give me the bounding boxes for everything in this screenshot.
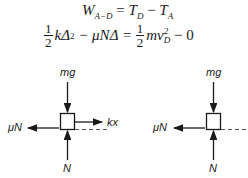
block-icon	[61, 114, 75, 130]
spring-force-label: kx	[107, 116, 118, 128]
free-body-diagram-1	[28, 82, 108, 160]
free-body-diagram-2	[174, 82, 248, 160]
normal-force-label: N	[209, 162, 217, 174]
weight-label: mg	[206, 66, 221, 78]
friction-label: μN	[153, 121, 167, 133]
friction-label: μN	[8, 121, 22, 133]
normal-force-label: N	[63, 162, 71, 174]
block-icon	[207, 114, 221, 130]
weight-label: mg	[60, 66, 75, 78]
free-body-diagrams	[0, 0, 248, 178]
